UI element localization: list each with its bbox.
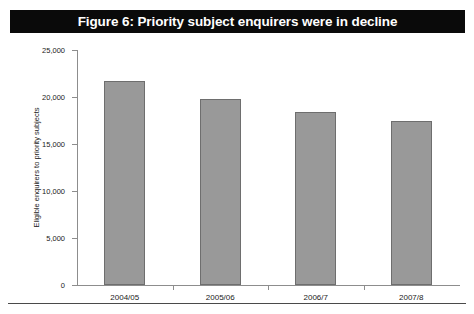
figure-title-bar: Figure 6: Priority subject enquirers wer… <box>10 10 465 33</box>
y-axis-tick: 20,000 <box>72 97 78 98</box>
x-axis-tick-label: 2004/05 <box>110 293 139 302</box>
y-axis-tick-label: 15,000 <box>42 140 65 149</box>
y-axis-tick-label: 25,000 <box>42 46 65 55</box>
bar <box>104 81 145 285</box>
plot-area: 05,00010,00015,00020,00025,000 2004/0520… <box>77 50 459 285</box>
y-axis-tick-label: 5,000 <box>46 234 65 243</box>
chart-canvas: Eligible enquirers to priority subjects … <box>10 35 465 300</box>
y-axis-tick-label: 0 <box>61 281 65 290</box>
x-axis-tick-label: 2007/8 <box>399 293 423 302</box>
x-axis-tick <box>173 285 174 290</box>
x-axis-tick <box>364 285 365 290</box>
y-axis-tick-label: 10,000 <box>42 187 65 196</box>
x-axis-tick <box>268 285 269 290</box>
footer-divider <box>8 303 466 304</box>
y-axis-tick: 0 <box>72 285 78 286</box>
figure-container: Figure 6: Priority subject enquirers wer… <box>0 0 474 314</box>
y-axis-tick-label: 20,000 <box>42 93 65 102</box>
y-axis-tick: 15,000 <box>72 144 78 145</box>
y-axis-tick: 25,000 <box>72 50 78 51</box>
bar <box>391 121 432 285</box>
bar <box>200 99 241 285</box>
y-axis-title-label: Eligible enquirers to priority subjects <box>32 107 41 227</box>
y-axis-title: Eligible enquirers to priority subjects <box>30 50 42 285</box>
y-axis-line <box>77 50 78 286</box>
y-axis-tick: 10,000 <box>72 191 78 192</box>
page-title: Figure 6: Priority subject enquirers wer… <box>78 14 398 29</box>
x-axis-tick-label: 2006/7 <box>304 293 328 302</box>
bar <box>295 112 336 285</box>
y-axis-tick: 5,000 <box>72 238 78 239</box>
x-axis-tick-label: 2005/06 <box>206 293 235 302</box>
